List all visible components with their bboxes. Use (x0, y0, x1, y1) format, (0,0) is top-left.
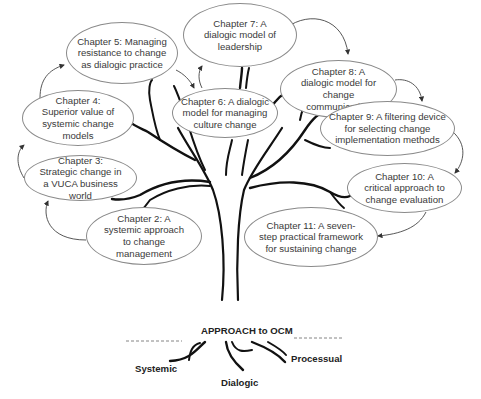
chapter-11-text: Chapter 11: A seven-step practical frame… (259, 220, 363, 255)
arrow-ch8-ch9 (395, 80, 422, 101)
tree-roots (170, 342, 286, 370)
chapter-10-text: Chapter 10: A critical approach to chang… (364, 171, 445, 206)
chapter-7-node: Chapter 7: A dialogic model of leadershi… (183, 3, 297, 67)
chapter-6-node: Chapter 6: A dialogic model for managing… (172, 88, 278, 138)
chapter-10-node: Chapter 10: A critical approach to chang… (347, 163, 462, 213)
chapter-7-text: Chapter 7: A dialogic model of leadershi… (200, 18, 280, 53)
chapter-4-text: Chapter 4: Superior value of systemic ch… (37, 95, 119, 141)
chapter-6-text: Chapter 6: A dialogic model for managing… (181, 96, 269, 131)
processual-root-label: Processual (291, 353, 342, 364)
arrow-ch3-ch4 (18, 145, 24, 178)
chapter-11-node: Chapter 11: A seven-step practical frame… (244, 207, 378, 267)
arrow-ch5-ch6 (176, 70, 194, 88)
dialogic-root-label: Dialogic (221, 377, 258, 388)
arrow-ch2-ch3 (46, 201, 86, 240)
chapter-2-text: Chapter 2: A systemic approach to change… (99, 213, 189, 259)
chapter-3-node: Chapter 3: Strategic change in a VUCA bu… (24, 155, 137, 201)
chapter-tree-diagram: Chapter 5: Managing resistance to change… (0, 0, 481, 399)
arrow-ch6-ch7 (199, 66, 202, 88)
chapter-5-text: Chapter 5: Managing resistance to change… (75, 36, 169, 71)
arrow-ch9-ch10 (452, 131, 463, 173)
arrow-ch10-ch11 (378, 212, 426, 236)
chapter-2-node: Chapter 2: A systemic approach to change… (86, 207, 202, 265)
systemic-root-label: Systemic (135, 363, 177, 374)
chapter-3-text: Chapter 3: Strategic change in a VUCA bu… (39, 155, 122, 201)
chapter-4-node: Chapter 4: Superior value of systemic ch… (22, 90, 134, 146)
approach-to-ocm-label: APPROACH to OCM (201, 325, 293, 336)
chapter-9-text: Chapter 9: A filtering device for select… (329, 111, 446, 146)
chapter-5-node: Chapter 5: Managing resistance to change… (66, 22, 178, 84)
chapter-9-node: Chapter 9: A filtering device for select… (320, 101, 455, 156)
